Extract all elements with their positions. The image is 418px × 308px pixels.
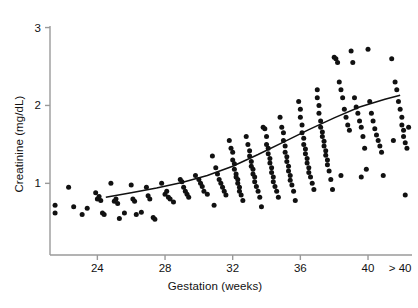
data-point [249, 159, 254, 164]
data-point [113, 196, 118, 201]
data-point [286, 168, 291, 173]
data-point [240, 198, 245, 203]
data-point [256, 189, 261, 194]
data-point [239, 193, 244, 198]
data-point [391, 138, 396, 143]
data-point [250, 167, 255, 172]
data-point [245, 142, 250, 147]
data-point [269, 170, 274, 175]
data-point [254, 184, 259, 189]
data-point [152, 217, 157, 222]
data-point [293, 198, 298, 203]
data-point [264, 134, 269, 139]
data-point [308, 175, 313, 180]
y-axis-title: Creatinine (mg/dL) [13, 69, 25, 219]
data-point [316, 111, 321, 116]
y-tick-label: 1 [35, 177, 41, 189]
data-point [159, 181, 164, 186]
data-point [327, 168, 332, 173]
data-point [122, 210, 127, 215]
data-point [85, 206, 90, 211]
data-point [267, 156, 272, 161]
data-point [186, 195, 191, 200]
y-tick-label: 3 [35, 22, 41, 34]
data-point [335, 60, 340, 65]
data-point [393, 80, 398, 85]
data-point [257, 195, 262, 200]
data-point [403, 193, 408, 198]
data-point [349, 48, 354, 53]
data-point [212, 203, 217, 208]
data-point [362, 146, 367, 151]
data-point [394, 87, 399, 92]
data-point [337, 80, 342, 85]
data-point [129, 182, 134, 187]
data-point [340, 95, 345, 100]
data-point [230, 150, 235, 155]
data-point [323, 148, 328, 153]
data-point [320, 134, 325, 139]
data-point [396, 99, 401, 104]
data-point [296, 99, 301, 104]
data-point [381, 173, 386, 178]
data-point [344, 115, 349, 120]
data-point [303, 151, 308, 156]
data-point [360, 134, 365, 139]
data-point [271, 179, 276, 184]
data-point [359, 175, 364, 180]
data-point [108, 181, 113, 186]
data-point [193, 173, 198, 178]
data-point [284, 159, 289, 164]
data-points [53, 47, 412, 222]
data-point [399, 122, 404, 127]
data-point [401, 134, 406, 139]
data-point [213, 165, 218, 170]
data-point [244, 134, 249, 139]
data-point [147, 196, 152, 201]
data-point [205, 192, 210, 197]
data-point [404, 146, 409, 151]
data-point [53, 203, 58, 208]
data-point [301, 142, 306, 147]
data-point [267, 161, 272, 166]
data-point [403, 140, 408, 145]
x-axis-ticks: 2428323640> 40 [91, 255, 412, 274]
data-point [310, 181, 315, 186]
y-axis-ticks: 123 [35, 22, 50, 190]
data-point [139, 210, 144, 215]
data-point [311, 187, 316, 192]
data-point [278, 115, 283, 120]
data-point [232, 167, 237, 172]
data-point [303, 147, 308, 152]
data-point [316, 103, 321, 108]
data-point [259, 204, 264, 209]
data-point [305, 161, 310, 166]
data-point [345, 122, 350, 127]
x-tick-label: 32 [226, 262, 239, 274]
data-point [338, 87, 343, 92]
data-point [323, 153, 328, 158]
data-point [164, 189, 169, 194]
data-point [355, 111, 360, 116]
data-point [306, 170, 311, 175]
data-point [357, 119, 362, 124]
data-point [279, 125, 284, 130]
data-point [289, 182, 294, 187]
x-tick-label: 24 [91, 262, 104, 274]
data-point [210, 154, 215, 159]
data-point [379, 150, 384, 155]
x-tick-label: 36 [294, 262, 307, 274]
data-point [252, 175, 257, 180]
data-point [288, 178, 293, 183]
data-point [359, 125, 364, 130]
data-point [266, 151, 271, 156]
data-point [298, 115, 303, 120]
data-point [291, 189, 296, 194]
data-point [320, 129, 325, 134]
data-point [371, 119, 376, 124]
data-point [364, 167, 369, 172]
data-point [93, 190, 98, 195]
data-point [366, 47, 371, 52]
data-point [200, 184, 205, 189]
data-point [272, 184, 277, 189]
